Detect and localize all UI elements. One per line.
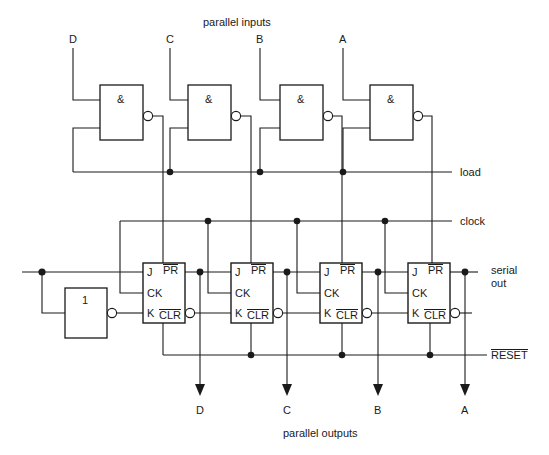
ff-d-pin-CK: CK — [147, 287, 162, 299]
ff-a-pr-overline-text: PR — [428, 264, 443, 276]
circuit-schematic-svg — [0, 0, 549, 455]
ff-d-pin-CLR: CLR — [159, 309, 181, 321]
output-wire-C — [282, 272, 292, 396]
ff-b-pin-K: K — [324, 307, 331, 319]
input-label-B: B — [256, 33, 263, 45]
clock-bus-label: clock — [460, 215, 485, 227]
reset-bus-label: RESET — [491, 349, 528, 361]
gate-4-load-wire — [343, 128, 370, 172]
input-wire-D — [73, 48, 100, 100]
circuit-diagram-canvas: parallel inputs D C B A & & & & 1 load c… — [0, 0, 549, 455]
input-wire-A — [343, 48, 370, 100]
input-wire-C — [170, 48, 188, 100]
ff-b-clr-overline-text: CLR — [336, 309, 358, 321]
ff-a-pin-CLR: CLR — [424, 309, 446, 321]
inverter-symbol: 1 — [82, 294, 88, 306]
ff-a-pin-CK: CK — [412, 287, 427, 299]
ff-c-pin-CK: CK — [235, 287, 250, 299]
clock-branch-ff2 — [208, 221, 231, 293]
ff-b-pin-CLR: CLR — [336, 309, 358, 321]
ff-b-pr-overline-text: PR — [340, 264, 355, 276]
output-label-A: A — [461, 404, 468, 416]
output-label-D: D — [196, 404, 204, 416]
serial-out-label-line1: serial — [491, 264, 517, 276]
input-label-D: D — [69, 33, 77, 45]
gate-3-symbol: & — [297, 93, 304, 105]
output-label-B: B — [374, 404, 381, 416]
gate-2-load-wire — [170, 128, 188, 172]
gate-4-body — [370, 85, 423, 140]
gate-2-body — [188, 85, 241, 140]
input-label-C: C — [166, 33, 174, 45]
ff-c-pin-J: J — [235, 266, 241, 278]
ff-a-pin-K: K — [412, 307, 419, 319]
ff-d-clr-overline-text: CLR — [159, 309, 181, 321]
ff-d-pin-K: K — [147, 307, 154, 319]
ff-b-pin-PR: PR — [340, 264, 355, 276]
ff-a-pin-PR: PR — [428, 264, 443, 276]
ff-b-pin-CK: CK — [324, 287, 339, 299]
clock-branch-ff4 — [385, 221, 408, 293]
ff-c-pin-PR: PR — [251, 264, 266, 276]
output-wire-A — [460, 272, 470, 396]
ff-d-pin-J: J — [147, 266, 153, 278]
gate-1-symbol: & — [117, 93, 124, 105]
ff-c-pr-overline-text: PR — [251, 264, 266, 276]
input-label-A: A — [339, 33, 346, 45]
inverter-input-wire — [42, 272, 65, 313]
gate-4-output-to-pr — [422, 116, 432, 263]
gate-1-load-wire — [73, 128, 100, 172]
gate-3-body — [280, 85, 333, 140]
gate-3-load-wire — [260, 128, 280, 172]
ff-a-clr-overline-text: CLR — [424, 309, 446, 321]
parallel-inputs-title: parallel inputs — [203, 16, 271, 28]
input-wire-B — [260, 48, 280, 100]
gate-2-symbol: & — [205, 93, 212, 105]
clock-branch-ff1 — [120, 221, 143, 293]
ff-b-pin-J: J — [324, 266, 330, 278]
gate-1-body — [100, 85, 153, 140]
gate-1-output-to-pr — [152, 116, 163, 263]
gate-4-symbol: & — [387, 93, 394, 105]
parallel-outputs-title: parallel outputs — [283, 427, 358, 439]
output-wire-D — [195, 272, 205, 396]
inverter-body — [65, 288, 117, 338]
ff-c-clr-overline-text: CLR — [247, 309, 269, 321]
ff-c-pin-K: K — [235, 307, 242, 319]
ff-c-pin-CLR: CLR — [247, 309, 269, 321]
gate-2-output-to-pr — [240, 116, 251, 263]
clock-branch-ff3 — [297, 221, 320, 293]
reset-overline-text: RESET — [491, 349, 528, 361]
output-label-C: C — [283, 404, 291, 416]
serial-out-label-line2: out — [491, 277, 506, 289]
ff-d-pin-PR: PR — [163, 264, 178, 276]
output-wire-B — [373, 272, 383, 396]
gate-3-output-to-pr — [332, 116, 342, 263]
load-bus-label: load — [460, 166, 481, 178]
ff-d-pr-overline-text: PR — [163, 264, 178, 276]
ff-a-pin-J: J — [412, 266, 418, 278]
